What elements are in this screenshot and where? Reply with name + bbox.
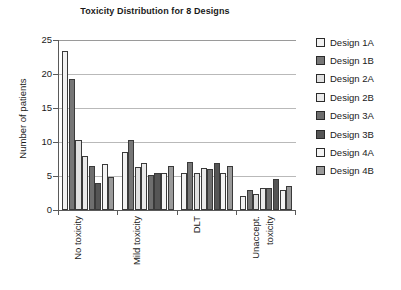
bar [122, 152, 128, 210]
bar [108, 177, 114, 210]
legend-label: Design 2A [330, 73, 374, 84]
legend-label: Design 2B [330, 92, 374, 103]
legend-swatch-icon [316, 111, 325, 120]
bar [161, 173, 167, 210]
bar [187, 162, 193, 210]
y-tick-mark [53, 40, 58, 41]
bar [286, 186, 292, 210]
bar [273, 179, 279, 210]
bar [227, 166, 233, 210]
y-tick-label: 5 [26, 170, 52, 181]
y-tick-mark [53, 108, 58, 109]
legend-label: Design 3B [330, 129, 374, 140]
legend-label: Design 4A [330, 147, 374, 158]
bar [95, 183, 101, 210]
legend-swatch-icon [316, 38, 325, 47]
x-axis-label: Unaccept. [250, 216, 261, 259]
x-axis-label: Mild toxicity [131, 216, 142, 265]
bar [280, 190, 286, 210]
bar [128, 140, 134, 210]
bar-group [181, 40, 234, 210]
x-tick-mark [177, 210, 178, 215]
bar [214, 163, 220, 210]
legend-swatch-icon [316, 148, 325, 157]
chart-title: Toxicity Distribution for 8 Designs [0, 6, 310, 16]
legend-item[interactable]: Design 1A [316, 33, 401, 51]
bar [141, 163, 147, 210]
legend-item[interactable]: Design 3B [316, 125, 401, 143]
legend-label: Design 1A [330, 37, 374, 48]
bar [194, 173, 200, 210]
legend-swatch-icon [316, 74, 325, 83]
bar [69, 79, 75, 210]
y-tick-label: 20 [26, 68, 52, 79]
bar [62, 51, 68, 210]
legend-swatch-icon [316, 93, 325, 102]
y-tick-label: 25 [26, 34, 52, 45]
bar [135, 167, 141, 210]
legend-item[interactable]: Design 4B [316, 162, 401, 180]
bar [75, 140, 81, 210]
x-axis-label: DLT [191, 216, 202, 233]
bar [168, 166, 174, 210]
x-axis-label: toxicity [264, 216, 275, 245]
bar [82, 156, 88, 210]
x-axis-label: No toxicity [72, 216, 83, 260]
bar-chart: Toxicity Distribution for 8 Designs Numb… [0, 0, 401, 290]
bar [89, 166, 95, 210]
bar [181, 173, 187, 210]
chart-legend: Design 1ADesign 1BDesign 2ADesign 2BDesi… [316, 33, 401, 180]
y-tick-mark [53, 74, 58, 75]
x-tick-mark [58, 210, 59, 215]
bar-group [240, 40, 293, 210]
bar [260, 188, 266, 210]
legend-item[interactable]: Design 2B [316, 88, 401, 106]
bar [220, 173, 226, 210]
plot-area [58, 40, 296, 211]
bar-group [62, 40, 115, 210]
legend-swatch-icon [316, 56, 325, 65]
x-tick-mark [295, 210, 296, 215]
bar [102, 164, 108, 210]
y-tick-mark [53, 176, 58, 177]
bar [253, 194, 259, 210]
legend-label: Design 4B [330, 165, 374, 176]
bar [240, 196, 246, 210]
legend-swatch-icon [316, 166, 325, 175]
bar [207, 169, 213, 210]
bar [247, 190, 253, 210]
bar-group [122, 40, 175, 210]
y-tick-label: 0 [26, 204, 52, 215]
y-tick-label: 10 [26, 136, 52, 147]
legend-item[interactable]: Design 4A [316, 143, 401, 161]
legend-label: Design 1B [330, 55, 374, 66]
y-tick-mark [53, 142, 58, 143]
x-tick-mark [117, 210, 118, 215]
legend-item[interactable]: Design 2A [316, 70, 401, 88]
legend-item[interactable]: Design 1B [316, 51, 401, 69]
legend-label: Design 3A [330, 110, 374, 121]
legend-swatch-icon [316, 130, 325, 139]
bar [148, 175, 154, 210]
bar [266, 188, 272, 210]
bar [201, 168, 207, 210]
y-tick-label: 15 [26, 102, 52, 113]
x-tick-mark [236, 210, 237, 215]
legend-item[interactable]: Design 3A [316, 107, 401, 125]
bar [154, 173, 160, 210]
